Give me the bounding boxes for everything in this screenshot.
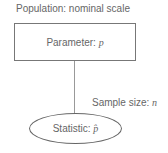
connector-line (74, 61, 75, 114)
statistic-ellipse: Statistic: p̂ (29, 113, 122, 144)
statistic-label: Statistic: (53, 123, 91, 134)
parameter-label: Parameter: (46, 37, 95, 48)
sample-size-label: Sample size: n (92, 97, 157, 108)
sample-size-symbol: n (152, 97, 157, 108)
parameter-box: Parameter: p (14, 23, 136, 61)
sample-size-text: Sample size: (92, 97, 149, 108)
population-label: Population: nominal scale (16, 3, 130, 14)
statistic-symbol: p̂ (93, 123, 98, 134)
parameter-symbol: p (99, 37, 104, 48)
